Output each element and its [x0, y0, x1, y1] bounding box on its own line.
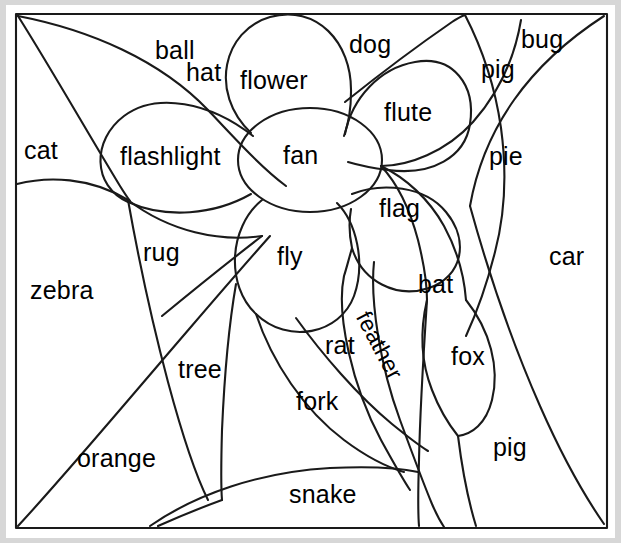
region-label-pie: pie — [489, 142, 523, 171]
boundary-tree-right — [221, 284, 236, 500]
region-label-snake: snake — [289, 480, 357, 509]
boundary-cat-hat — [18, 16, 130, 201]
region-label-tree: tree — [178, 355, 222, 384]
region-label-fly: fly — [277, 242, 303, 271]
region-label-fox: fox — [451, 342, 485, 371]
region-label-fan: fan — [283, 141, 318, 170]
region-label-flower: flower — [240, 66, 308, 95]
region-label-flashlight: flashlight — [120, 142, 221, 171]
region-label-ball: ball — [155, 36, 195, 65]
region-label-pig-top: pig — [481, 55, 515, 84]
region-label-pig-bottom: pig — [493, 433, 527, 462]
region-label-dog: dog — [349, 30, 391, 59]
worksheet-page: hat ball flower dog bug pig flute cat fl… — [0, 0, 621, 543]
region-label-cat: cat — [24, 136, 58, 165]
region-label-flag: flag — [379, 194, 420, 223]
boundary-snake — [150, 467, 418, 526]
region-label-fork: fork — [296, 387, 338, 416]
region-label-car: car — [549, 242, 584, 271]
region-label-rug: rug — [143, 238, 180, 267]
region-label-bug: bug — [521, 25, 563, 54]
region-label-orange: orange — [77, 444, 156, 473]
region-label-zebra: zebra — [30, 276, 94, 305]
region-label-flute: flute — [384, 98, 432, 127]
region-label-bat: bat — [418, 270, 453, 299]
boundary-fox-stem — [458, 436, 476, 526]
boundary-rug-arc — [128, 200, 262, 238]
region-label-rat: rat — [325, 331, 355, 360]
